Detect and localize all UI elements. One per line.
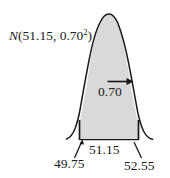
distribution-label: N(51.15, 0.702) xyxy=(9,29,92,43)
distribution-label-body: (51.15, 0.70 xyxy=(18,28,83,43)
mean-tick-label: 51.15 xyxy=(89,143,119,157)
distribution-label-n: N xyxy=(9,28,18,43)
upper-bound-tick-label: 52.55 xyxy=(124,159,154,173)
lower-leader-arrowhead xyxy=(80,140,84,145)
sd-arrow-label: 0.70 xyxy=(98,85,122,99)
upper-leader-line xyxy=(134,142,142,158)
normal-distribution-figure: N(51.15, 0.702) 0.70 51.15 49.75 52.55 xyxy=(0,0,170,178)
lower-bound-tick-label: 49.75 xyxy=(54,157,84,171)
distribution-label-tail: ) xyxy=(87,28,92,43)
